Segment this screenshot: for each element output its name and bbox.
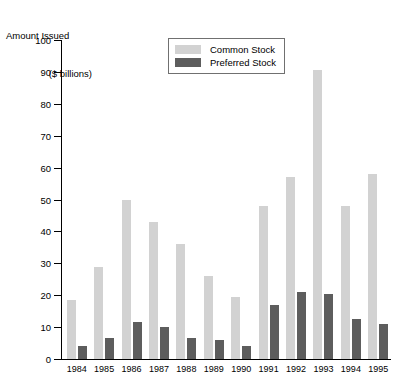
- y-axis-tick-mark: [54, 327, 61, 328]
- bar-group-1989: [204, 40, 224, 359]
- bar-preferred-stock-1994: [352, 319, 361, 359]
- bar-preferred-stock-1993: [324, 294, 333, 359]
- legend-label-common-stock: Common Stock: [210, 44, 275, 55]
- bar-preferred-stock-1985: [105, 338, 114, 359]
- bar-common-stock-1985: [94, 267, 103, 360]
- bar-common-stock-1984: [67, 300, 76, 359]
- bar-preferred-stock-1988: [187, 338, 196, 359]
- bar-group-1993: [313, 40, 333, 359]
- bar-group-1990: [231, 40, 251, 359]
- y-axis-tick-mark: [54, 200, 61, 201]
- y-axis-tick-label: 80: [21, 98, 51, 109]
- bar-common-stock-1988: [176, 244, 185, 359]
- bar-preferred-stock-1992: [297, 292, 306, 359]
- bar-group-1992: [286, 40, 306, 359]
- bar-group-1985: [94, 40, 114, 359]
- y-axis-tick-label: 50: [21, 194, 51, 205]
- y-axis-tick-label: 0: [21, 354, 51, 365]
- bar-preferred-stock-1989: [215, 340, 224, 359]
- bar-common-stock-1990: [231, 297, 240, 359]
- bar-common-stock-1994: [341, 206, 350, 359]
- y-axis-tick-label: 10: [21, 322, 51, 333]
- bar-group-1988: [176, 40, 196, 359]
- bar-common-stock-1991: [259, 206, 268, 359]
- bar-group-1987: [149, 40, 169, 359]
- y-axis-tick-label: 70: [21, 130, 51, 141]
- y-axis-tick-mark: [54, 231, 61, 232]
- bar-group-1995: [368, 40, 388, 359]
- bar-common-stock-1987: [149, 222, 158, 359]
- y-axis-tick-mark: [54, 72, 61, 73]
- x-axis-labels: 1984198519861987198819891990199119921993…: [61, 364, 397, 380]
- x-axis-label-1995: 1995: [358, 364, 398, 374]
- legend-swatch-common-stock-icon: [175, 45, 201, 54]
- legend-item-preferred-stock: Preferred Stock: [175, 56, 276, 69]
- x-axis-line: [61, 359, 391, 360]
- bar-preferred-stock-1995: [379, 324, 388, 359]
- bar-preferred-stock-1990: [242, 346, 251, 359]
- y-axis-tick-label: 40: [21, 226, 51, 237]
- bar-group-1991: [259, 40, 279, 359]
- bar-preferred-stock-1984: [78, 346, 87, 359]
- plot-area: 0102030405060708090100: [61, 40, 391, 360]
- bar-group-1984: [67, 40, 87, 359]
- bar-preferred-stock-1991: [270, 305, 279, 359]
- y-axis-tick-mark: [54, 104, 61, 105]
- bar-preferred-stock-1986: [133, 322, 142, 359]
- bars-layer: [62, 40, 391, 359]
- bar-common-stock-1989: [204, 276, 213, 359]
- bar-group-1986: [122, 40, 142, 359]
- y-axis-tick-mark: [54, 359, 61, 360]
- y-axis-tick-mark: [54, 168, 61, 169]
- y-axis-tick-mark: [54, 263, 61, 264]
- chart-legend: Common Stock Preferred Stock: [168, 38, 285, 74]
- y-axis-tick-label: 20: [21, 290, 51, 301]
- bar-preferred-stock-1987: [160, 327, 169, 359]
- bar-common-stock-1992: [286, 177, 295, 359]
- bar-common-stock-1986: [122, 200, 131, 360]
- y-axis-tick-mark: [54, 40, 61, 41]
- y-axis-tick-label: 60: [21, 162, 51, 173]
- y-axis-tick-label: 30: [21, 258, 51, 269]
- bar-common-stock-1993: [313, 70, 322, 359]
- legend-item-common-stock: Common Stock: [175, 43, 276, 56]
- bar-common-stock-1995: [368, 174, 377, 359]
- y-axis-tick-mark: [54, 136, 61, 137]
- y-axis-tick-label: 90: [21, 66, 51, 77]
- legend-swatch-preferred-stock-icon: [175, 58, 201, 67]
- y-axis-tick-label: 100: [21, 35, 51, 46]
- y-axis-tick-mark: [54, 295, 61, 296]
- legend-label-preferred-stock: Preferred Stock: [210, 57, 276, 68]
- bar-group-1994: [341, 40, 361, 359]
